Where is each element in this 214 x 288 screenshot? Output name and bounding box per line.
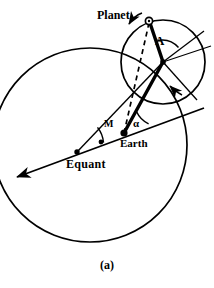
planet-point-core bbox=[148, 20, 150, 22]
earth-point bbox=[120, 129, 127, 136]
epicycle-radius-fan-1 bbox=[163, 31, 204, 62]
deferent-center-point bbox=[99, 140, 104, 145]
epicycle-center-point bbox=[160, 59, 166, 65]
angle-M-label: M bbox=[104, 118, 113, 129]
equant-point bbox=[74, 149, 79, 154]
equant-label: Equant bbox=[66, 157, 106, 172]
earth-label: Earth bbox=[120, 137, 148, 149]
figure-caption: (a) bbox=[0, 258, 214, 273]
planet-label: Planet bbox=[97, 8, 130, 23]
equant-diagram-figure: Planet Earth Equant A M α (a) bbox=[0, 0, 214, 288]
angle-A-label: A bbox=[155, 33, 164, 49]
angle-alpha-label: α bbox=[133, 117, 139, 129]
planet-motion-arrow bbox=[129, 13, 142, 24]
diagram-canvas bbox=[0, 0, 214, 288]
deferent-circle bbox=[0, 48, 187, 242]
